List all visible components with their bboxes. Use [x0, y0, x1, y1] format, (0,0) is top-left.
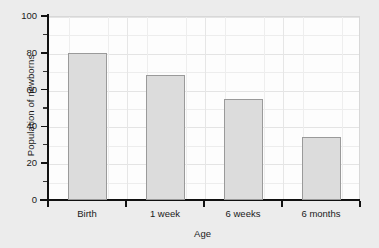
bar: [302, 137, 341, 200]
y-axis-tick: [41, 89, 47, 91]
y-axis-minor-tick: [43, 181, 47, 182]
x-axis-tick: [47, 201, 49, 207]
x-axis-tick: [125, 201, 127, 207]
y-axis-tick: [41, 15, 47, 17]
y-axis-tick-label: 0: [0, 194, 37, 205]
y-axis-tick-label: 20: [0, 157, 37, 168]
y-axis-tick-label: 40: [0, 120, 37, 131]
y-axis-tick-label: 80: [0, 47, 37, 58]
x-axis-tick: [203, 201, 205, 207]
y-axis-tick-label: 100: [0, 10, 37, 21]
x-axis-tick-label: 1 week: [126, 208, 204, 219]
x-axis-tick: [281, 201, 283, 207]
gridline-vertical: [127, 17, 128, 199]
x-axis-tick: [359, 201, 361, 207]
bar: [224, 99, 263, 200]
y-axis-tick-label: 60: [0, 84, 37, 95]
gridline-vertical-minor: [108, 17, 109, 199]
y-axis-line: [47, 14, 49, 202]
gridline-vertical: [205, 17, 206, 199]
bar: [146, 75, 185, 200]
y-axis-title: Population of newborns: [25, 16, 36, 196]
bar: [68, 53, 107, 200]
gridline-horizontal-minor: [49, 35, 359, 36]
y-axis-minor-tick: [43, 34, 47, 35]
bar-chart-figure: Population of newborns 020406080100 Birt…: [0, 0, 379, 248]
gridline-vertical-minor: [264, 17, 265, 199]
y-axis-minor-tick: [43, 144, 47, 145]
y-axis-tick: [41, 52, 47, 54]
x-axis-tick-label: 6 weeks: [204, 208, 282, 219]
x-axis-tick-label: 6 months: [282, 208, 360, 219]
y-axis-minor-tick: [43, 107, 47, 108]
y-axis-tick: [41, 126, 47, 128]
y-axis-minor-tick: [43, 71, 47, 72]
gridline-horizontal: [49, 17, 359, 18]
gridline-vertical-minor: [342, 17, 343, 199]
y-axis-tick: [41, 162, 47, 164]
x-axis-tick-label: Birth: [48, 208, 126, 219]
y-axis-tick: [41, 199, 47, 201]
gridline-vertical-minor: [186, 17, 187, 199]
gridline-vertical: [283, 17, 284, 199]
x-axis-title: Age: [45, 228, 360, 239]
